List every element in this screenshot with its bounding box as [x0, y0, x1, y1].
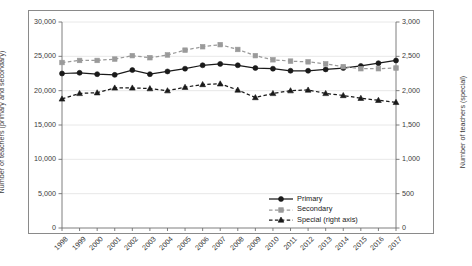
legend-marker-primary-icon: [268, 194, 294, 204]
left-axis-tick-label: 5,000: [0, 190, 56, 198]
legend-item-secondary[interactable]: Secondary: [268, 204, 358, 214]
left-axis-tick-label: 0: [0, 224, 56, 232]
legend-marker-special-icon: [268, 215, 294, 225]
left-axis-tick-label: 10,000: [0, 155, 56, 163]
right-axis-tick-label: 0: [402, 224, 406, 232]
legend-label-special: Special (right axis): [297, 215, 358, 225]
legend-label-secondary: Secondary: [297, 204, 332, 214]
left-axis-tick-label: 25,000: [0, 52, 56, 60]
legend-marker-secondary-icon: [268, 205, 294, 215]
legend-item-primary[interactable]: Primary: [268, 194, 358, 204]
left-axis-tick-label: 15,000: [0, 121, 56, 129]
left-axis-tick-label: 20,000: [0, 87, 56, 95]
legend-item-special[interactable]: Special (right axis): [268, 215, 358, 225]
right-axis-tick-label: 3,000: [402, 18, 420, 26]
right-axis-tick-label: 2,500: [402, 52, 420, 60]
chart-legend: PrimarySecondarySpecial (right axis): [268, 194, 358, 225]
legend-label-primary: Primary: [297, 194, 322, 204]
right-axis-tick-label: 1,500: [402, 121, 420, 129]
right-axis-tick-label: 2,000: [402, 87, 420, 95]
left-axis-tick-label: 30,000: [0, 18, 56, 26]
right-axis-tick-label: 1,000: [402, 155, 420, 163]
right-axis-tick-label: 500: [402, 190, 414, 198]
